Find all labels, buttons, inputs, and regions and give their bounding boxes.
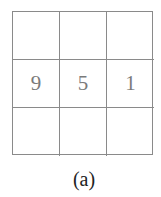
grid-cell-r2-c1: [60, 108, 107, 156]
grid-cell-r2-c2: [107, 108, 154, 156]
grid-cell-r0-c0: [13, 12, 60, 60]
grid-cell-r0-c2: [107, 12, 154, 60]
figure-caption: (a): [0, 168, 161, 191]
grid-cell-r2-c0: [13, 108, 60, 156]
grid-cell-r1-c1: 5: [60, 60, 107, 108]
number-grid: 9 5 1: [12, 11, 153, 155]
grid-cell-r1-c0: 9: [13, 60, 60, 108]
grid-cell-r1-c2: 1: [107, 60, 154, 108]
grid-cell-r0-c1: [60, 12, 107, 60]
